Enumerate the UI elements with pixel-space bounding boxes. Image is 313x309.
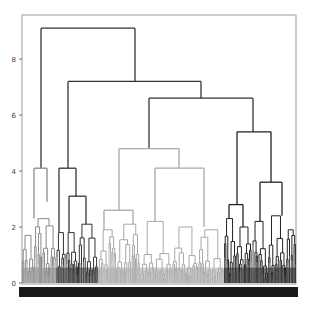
y-tick-label: 4: [12, 168, 17, 176]
y-tick-label: 2: [12, 224, 16, 232]
y-tick-label: 0: [12, 280, 16, 288]
y-axis: 02468: [12, 56, 22, 288]
y-tick-label: 6: [12, 112, 17, 120]
dendrogram-chart: 02468: [0, 0, 313, 309]
leaf-branches: [22, 216, 296, 283]
y-tick-label: 8: [12, 56, 16, 64]
merge-branches: [34, 28, 282, 232]
cluster-color-bar: [19, 287, 298, 297]
